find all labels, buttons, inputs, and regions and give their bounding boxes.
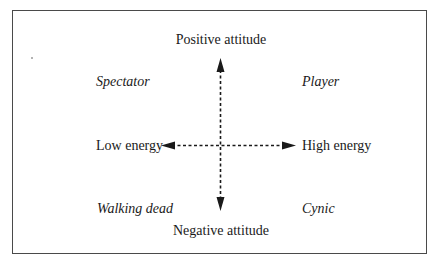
quadrant-label-cynic: Cynic [302,201,335,217]
arrow-down-icon [217,197,225,211]
arrow-left-icon [161,142,175,150]
arrow-right-icon [282,142,296,150]
axis-label-positive-attitude: Positive attitude [176,32,267,48]
axis-label-low-energy: Low energy [96,138,163,154]
quadrant-label-walking-dead: Walking dead [97,201,173,217]
axis-label-high-energy: High energy [302,138,371,154]
axis-label-negative-attitude: Negative attitude [173,223,269,239]
arrow-up-icon [217,58,225,72]
quadrant-label-player: Player [302,74,339,90]
quadrant-label-spectator: Spectator [96,74,150,90]
